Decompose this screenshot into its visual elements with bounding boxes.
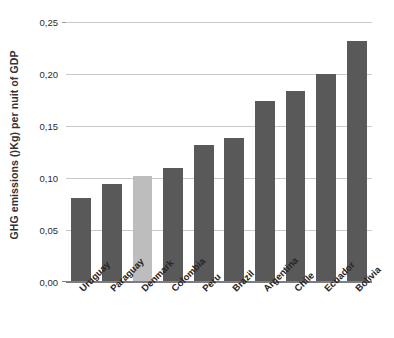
bar-bolivia: [347, 41, 367, 282]
plot-area: [66, 22, 372, 282]
y-axis-tick-label: 0,05: [40, 225, 59, 236]
y-axis-tick-labels: 0,250,200,150,100,050,00: [26, 0, 62, 290]
bar-chile: [286, 91, 306, 282]
y-axis-tick-label: 0,15: [40, 121, 59, 132]
bar-ecuador: [316, 74, 336, 282]
bar-brazil: [224, 138, 244, 282]
x-axis-category-labels: UruguayParaguayDenmarkColombiaPeruBrazil…: [66, 284, 372, 338]
bar-argentina: [255, 101, 275, 282]
bar-uruguay: [71, 198, 91, 282]
y-axis-title-text: GHG emissions ()Kg) per nuit of GDP: [7, 50, 19, 239]
bar-series: [66, 22, 372, 282]
y-axis-tick-label: 0,20: [40, 69, 59, 80]
y-axis-title: GHG emissions ()Kg) per nuit of GDP: [0, 0, 26, 290]
bar-chart: GHG emissions ()Kg) per nuit of GDP 0,25…: [0, 0, 394, 338]
y-axis-tick-label: 0,00: [40, 277, 59, 288]
y-axis-tick-label: 0,25: [40, 17, 59, 28]
y-axis-tick-label: 0,10: [40, 173, 59, 184]
